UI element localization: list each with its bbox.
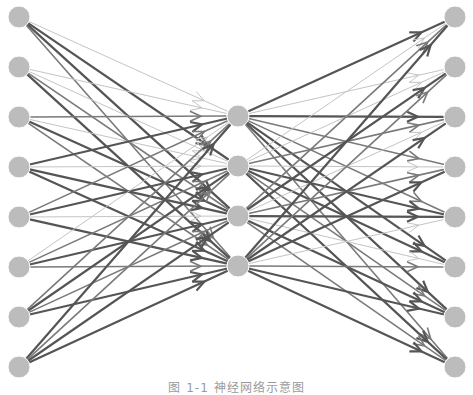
output-node-3 [444, 106, 466, 128]
edge-input-hidden [29, 271, 227, 362]
input-node-2 [8, 56, 30, 78]
output-node-8 [444, 356, 466, 378]
input-node-5 [8, 206, 30, 228]
hidden-node-4 [227, 255, 249, 277]
output-node-1 [444, 6, 466, 28]
input-node-4 [8, 156, 30, 178]
edge-input-hidden [30, 111, 226, 121]
connection-edges [26, 22, 447, 363]
figure-caption: 图 1-1 神经网络示意图 [0, 378, 473, 395]
input-node-7 [8, 306, 30, 328]
output-node-6 [444, 256, 466, 278]
edge-hidden-output [249, 262, 443, 272]
edge-input-hidden [29, 22, 227, 112]
edge-input-hidden [30, 69, 227, 113]
hidden-node-1 [227, 105, 249, 127]
output-node-5 [444, 206, 466, 228]
output-node-4 [444, 156, 466, 178]
hidden-node-3 [227, 205, 249, 227]
input-node-1 [8, 6, 30, 28]
input-node-8 [8, 356, 30, 378]
output-node-2 [444, 56, 466, 78]
input-node-3 [8, 106, 30, 128]
edge-hidden-output [249, 269, 444, 315]
hidden-node-2 [227, 155, 249, 177]
edge-hidden-output [248, 22, 444, 111]
output-node-7 [444, 306, 466, 328]
input-node-6 [8, 256, 30, 278]
edge-hidden-output [248, 271, 444, 362]
